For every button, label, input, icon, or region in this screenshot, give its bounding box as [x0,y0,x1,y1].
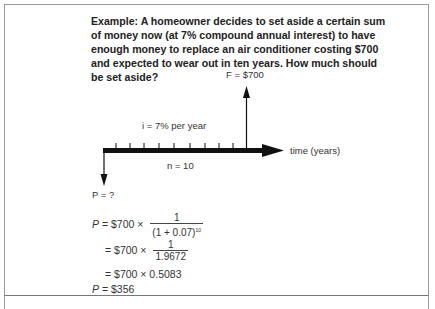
solution-line-1: P = $700 × 1 (1 + 0.07)10 [92,212,203,239]
present-value-label: P = ? [92,189,114,200]
denominator-base: (1 + 0.07) [152,227,195,238]
exponent: 10 [195,227,201,233]
result-text: = $356 [102,283,134,295]
solution-line-3: = $700 × 0.5083 [105,268,182,280]
timeline-axis [103,148,263,153]
timeline-arrowhead-icon [262,144,284,157]
up-arrowhead-icon [243,86,250,98]
cash-flow-diagram [0,0,435,309]
p-symbol: P [92,283,99,295]
down-arrowhead-icon [101,174,108,186]
periods-label: n = 10 [167,160,194,171]
equation-text: = $700 × [105,244,146,256]
denominator: (1 + 0.07)10 [150,223,203,239]
time-axis-label: time (years) [290,145,340,156]
denominator: 1.9672 [153,250,188,263]
numerator: 1 [153,239,188,250]
interest-rate-label: i = 7% per year [142,120,206,131]
solution-line-4: P = $356 [92,283,134,295]
numerator: 1 [150,212,203,223]
equation-text: = $700 × [102,218,143,230]
solution-line-2: = $700 × 1 1.9672 [105,239,188,263]
fraction: 1 1.9672 [153,239,188,263]
fraction: 1 (1 + 0.07)10 [150,212,203,239]
future-value-label: F = $700 [226,69,264,80]
p-symbol: P [92,218,99,230]
